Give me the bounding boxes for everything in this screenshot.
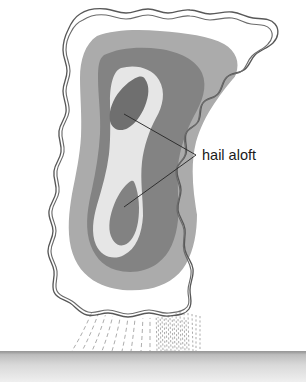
hailstorm-diagram: hail aloft <box>0 0 306 388</box>
ground-surface <box>0 351 306 382</box>
figure-root: hail aloft <box>0 0 306 388</box>
hail-aloft-label: hail aloft <box>202 147 256 163</box>
